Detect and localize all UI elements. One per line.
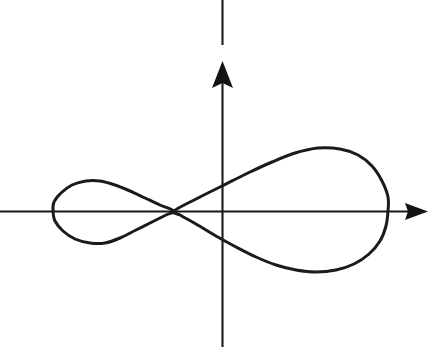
figure-canvas [0,0,431,347]
curve-figure-svg [0,0,431,347]
axes-group [0,0,428,347]
curve-group [53,148,389,272]
right-loop-path [173,148,388,272]
x-axis-arrow-icon [405,203,428,220]
